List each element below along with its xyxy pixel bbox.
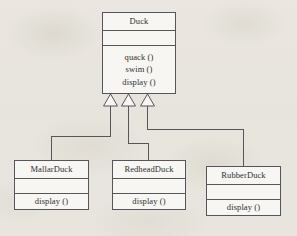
connector-mallarduck [52,106,111,160]
operation-display-mallarduck: display () [35,197,68,206]
class-attributes-redheadduck [113,178,185,193]
class-name-mallarduck: MallarDuck [15,161,88,178]
inheritance-triangle-redheadduck [122,94,136,106]
class-box-mallarduck[interactable]: MallarDuck display () [14,160,89,210]
operation-display-redheadduck: display () [132,197,165,206]
connector-redheadduck [129,106,149,160]
uml-class-diagram: Duck quack () swim () display () MallarD… [0,0,297,236]
class-attributes-duck [103,30,175,45]
class-box-duck[interactable]: Duck quack () swim () display () [102,12,176,94]
class-box-rubberduck[interactable]: RubberDuck display () [206,166,281,216]
connector-rubberduck [148,106,244,166]
class-operations-duck: quack () swim () display () [103,45,175,93]
class-operations-redheadduck: display () [113,193,185,209]
inheritance-triangle-mallarduck [104,94,118,106]
operation-swim: swim () [126,65,153,74]
operation-display-rubberduck: display () [227,203,260,212]
inheritance-triangle-rubberduck [141,94,155,106]
class-name-duck: Duck [103,13,175,30]
class-attributes-rubberduck [207,184,280,199]
class-operations-mallarduck: display () [15,193,88,209]
class-operations-rubberduck: display () [207,199,280,215]
operation-display: display () [122,78,155,87]
class-name-redheadduck: RedheadDuck [113,161,185,178]
class-name-rubberduck: RubberDuck [207,167,280,184]
class-box-redheadduck[interactable]: RedheadDuck display () [112,160,186,210]
operation-quack: quack () [125,53,154,62]
class-attributes-mallarduck [15,178,88,193]
